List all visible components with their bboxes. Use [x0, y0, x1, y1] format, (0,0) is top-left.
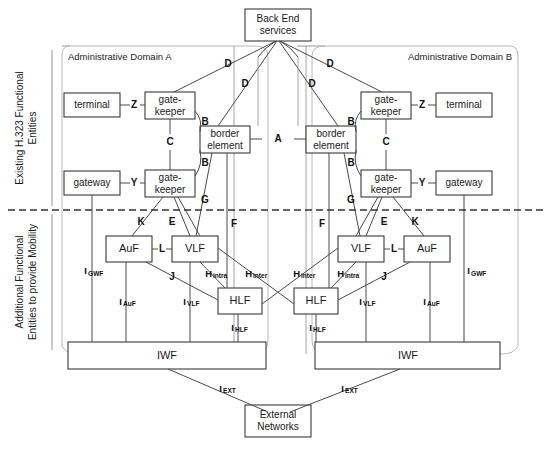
interface-label-c-right: C [382, 136, 389, 147]
h-intra-left-main: H [205, 268, 212, 279]
gatekeeper-top-label-right-line2: keeper [371, 106, 402, 117]
backend-links [172, 41, 384, 126]
interface-label-l-left: L [159, 243, 165, 254]
interface-label-b-left-top: B [201, 116, 208, 127]
link-k-right [393, 197, 424, 236]
gateway-label-right: gateway [445, 177, 482, 188]
interface-label-k-right: K [411, 216, 419, 227]
link-e-right [366, 197, 382, 236]
gatekeeper-top-label-left-line2: keeper [155, 106, 186, 117]
interface-label-i-ext-left: I EXT [219, 383, 235, 394]
i-vlf-right-sub: VLF [363, 300, 375, 307]
side-label-additional-line1: Additional Functional [14, 236, 25, 329]
border-element-label-left-line2: element [207, 140, 243, 151]
gatekeeper-bottom-label-left-line1: gate- [159, 172, 182, 183]
domain-b-title: Administrative Domain B [408, 51, 512, 62]
interface-label-i-ext-right: I EXT [341, 383, 357, 394]
i-hlf-left-main: I [231, 322, 234, 333]
i-vlf-left-sub: VLF [187, 300, 199, 307]
h-intra-right-sub: intra [345, 272, 360, 279]
h-inter-left-main: H [245, 268, 252, 279]
interface-label-k-left: K [137, 216, 145, 227]
iwf-label-left: IWF [157, 349, 177, 361]
backend-services-label-line1: Back End [257, 13, 300, 24]
interface-label-d-right-inner: D [308, 78, 315, 89]
interface-label-y-left: Y [131, 177, 138, 188]
domain-a-title: Administrative Domain A [68, 51, 172, 62]
border-element-label-right-line2: element [313, 140, 349, 151]
interface-label-b-right-top: B [347, 116, 354, 127]
i-auf-left-sub: AuF [123, 300, 136, 307]
interface-label-a: A [274, 133, 281, 144]
h-intra-left-sub: intra [213, 272, 228, 279]
interface-label-h-inter-left: H inter [245, 268, 268, 279]
interface-label-j-right: J [381, 271, 387, 282]
interface-label-l-right: L [391, 243, 397, 254]
vlf-label-left: VLF [185, 242, 205, 254]
interface-label-d-left-outer: D [224, 58, 231, 69]
i-gwf-left-sub: GWF [88, 270, 103, 277]
i-hlf-right-main: I [309, 322, 312, 333]
i-hlf-right-sub: HLF [313, 326, 326, 333]
link-i-ext-left [168, 369, 268, 412]
interface-label-c-left: C [166, 136, 173, 147]
interface-label-z-right: Z [419, 99, 425, 110]
i-ext-right-main: I [341, 383, 344, 394]
border-element-label-right-line1: border [317, 128, 347, 139]
auf-label-right: AuF [417, 242, 437, 254]
external-networks-label-line1: External [260, 409, 297, 420]
link-e-right-b [356, 197, 378, 236]
link-j-right [338, 262, 410, 300]
gatekeeper-top-label-right-line1: gate- [375, 94, 398, 105]
gatekeeper-bottom-label-left-line2: keeper [155, 184, 186, 195]
hlf-label-right: HLF [306, 294, 327, 306]
i-gwf-right-main: I [467, 265, 470, 276]
hlf-label-left: HLF [230, 294, 251, 306]
i-auf-left-main: I [119, 296, 122, 307]
interface-label-b-right-bottom: B [347, 157, 354, 168]
interface-label-i-auf-left: I AuF [119, 296, 135, 307]
i-ext-left-main: I [219, 383, 222, 394]
terminal-label-right: terminal [446, 99, 482, 110]
gatekeeper-bottom-label-right-line1: gate- [375, 172, 398, 183]
interface-label-j-left: J [169, 271, 175, 282]
link-e-left [174, 197, 190, 236]
interface-label-y-right: Y [419, 177, 426, 188]
interface-label-e-left: E [169, 216, 176, 227]
interface-label-i-gwf-right: I GWF [467, 265, 486, 277]
i-ext-left-sub: EXT [223, 387, 236, 394]
h323-mobility-architecture-diagram: Back End services External Networks term… [0, 0, 552, 449]
interface-label-h-intra-right: H intra [337, 268, 359, 279]
interface-label-i-vlf-right: I VLF [359, 296, 375, 307]
link-e-left-b [178, 197, 200, 236]
gateway-label-left: gateway [73, 177, 110, 188]
terminal-label-left: terminal [74, 99, 110, 110]
interface-label-e-right: E [381, 216, 388, 227]
h-inter-right-main: H [293, 268, 300, 279]
border-element-label-left-line1: border [211, 128, 241, 139]
side-label-existing-line2: Entities [27, 112, 38, 145]
side-label-additional-line2: Entities to provide Mobility [27, 224, 38, 340]
interface-label-i-hlf-left: I HLF [231, 322, 247, 333]
interface-label-g-right: G [347, 194, 355, 205]
i-gwf-left-main: I [84, 265, 87, 276]
side-label-existing: Existing H.323 Functional Entities [14, 71, 38, 184]
interface-label-i-gwf-left: I GWF [84, 265, 103, 277]
side-label-existing-line1: Existing H.323 Functional [14, 71, 25, 184]
interface-label-g-left: G [201, 194, 209, 205]
backend-services-label-line2: services [260, 25, 297, 36]
i-hlf-left-sub: HLF [235, 326, 248, 333]
interface-label-d-left-inner: D [241, 78, 248, 89]
link-b-right-bottom [355, 150, 361, 176]
external-networks-label-line2: Networks [257, 421, 299, 432]
link-b-left-bottom [195, 150, 201, 176]
interface-label-f-left: F [231, 218, 237, 229]
gatekeeper-bottom-label-right-line2: keeper [371, 184, 402, 195]
interface-label-z-left: Z [131, 99, 137, 110]
auf-label-left: AuF [119, 242, 139, 254]
interface-label-d-right-outer: D [326, 58, 333, 69]
h-inter-right-sub: inter [301, 272, 316, 279]
i-ext-right-sub: EXT [345, 387, 358, 394]
iwf-label-right: IWF [398, 349, 418, 361]
h-inter-left-sub: inter [253, 272, 268, 279]
